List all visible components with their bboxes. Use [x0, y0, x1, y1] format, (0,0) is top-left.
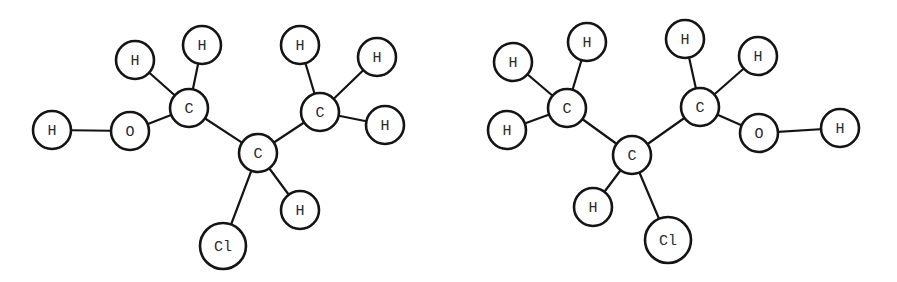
atom-label: O: [125, 124, 134, 141]
atom-cl: Cl: [645, 217, 691, 263]
molecule-diagram: HOCHHCCHHHHCl HHCHCCHHOHHCl: [0, 0, 897, 282]
atoms-right: HHCHCCHHOHHCl: [488, 20, 859, 263]
molecule-left: HOCHHCCHHHHCl: [33, 26, 404, 269]
atom-label: C: [627, 148, 636, 165]
atom-label: H: [588, 200, 597, 217]
atom-h: H: [739, 37, 777, 75]
bonds-left: [52, 45, 385, 246]
atoms-left: HOCHHCCHHHHCl: [33, 26, 404, 269]
atom-c: C: [613, 136, 651, 174]
atom-c: C: [548, 89, 586, 127]
atom-h: H: [358, 38, 396, 76]
atom-h: H: [116, 41, 154, 79]
atom-label: H: [295, 203, 304, 220]
bonds-right: [507, 39, 840, 240]
atom-c: C: [301, 93, 339, 131]
atom-label: H: [680, 32, 689, 49]
atom-h: H: [33, 111, 71, 149]
atom-label: H: [835, 121, 844, 138]
atom-h: H: [281, 191, 319, 229]
atom-label: Cl: [659, 233, 677, 250]
atom-label: H: [753, 49, 762, 66]
atom-label: H: [582, 35, 591, 52]
atom-c: C: [170, 89, 208, 127]
atom-h: H: [821, 109, 859, 147]
atom-label: H: [130, 53, 139, 70]
atom-c: C: [239, 134, 277, 172]
atom-o: O: [111, 112, 149, 150]
atom-label: Cl: [214, 239, 232, 256]
atom-label: O: [754, 126, 763, 143]
atom-h: H: [281, 26, 319, 64]
atom-label: H: [295, 38, 304, 55]
atom-c: C: [681, 88, 719, 126]
atom-label: H: [380, 118, 389, 135]
atom-label: C: [315, 105, 324, 122]
atom-o: O: [740, 114, 778, 152]
atom-label: H: [47, 123, 56, 140]
atom-label: C: [695, 100, 704, 117]
atom-label: H: [197, 38, 206, 55]
atom-label: C: [562, 101, 571, 118]
atom-label: C: [184, 101, 193, 118]
atom-h: H: [568, 23, 606, 61]
atom-label: H: [372, 50, 381, 67]
atom-h: H: [183, 26, 221, 64]
atom-h: H: [574, 188, 612, 226]
atom-h: H: [488, 111, 526, 149]
atom-label: C: [253, 146, 262, 163]
atom-h: H: [666, 20, 704, 58]
atom-h: H: [366, 106, 404, 144]
atom-label: H: [502, 123, 511, 140]
atom-h: H: [494, 43, 532, 81]
molecule-right: HHCHCCHHOHHCl: [488, 20, 859, 263]
atom-label: H: [508, 55, 517, 72]
atom-cl: Cl: [200, 223, 246, 269]
